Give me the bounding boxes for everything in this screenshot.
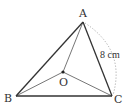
point-O — [61, 70, 64, 73]
label-C: C — [114, 93, 122, 106]
segment-OA — [63, 22, 83, 72]
label-O: O — [59, 76, 68, 89]
segment-OB — [16, 72, 63, 96]
measurement-label-AC: 8 cm — [100, 49, 120, 60]
triangle-diagram: A B C O 8 cm — [0, 0, 135, 112]
label-B: B — [4, 92, 12, 105]
label-A: A — [78, 7, 88, 20]
segment-AB — [16, 22, 83, 96]
